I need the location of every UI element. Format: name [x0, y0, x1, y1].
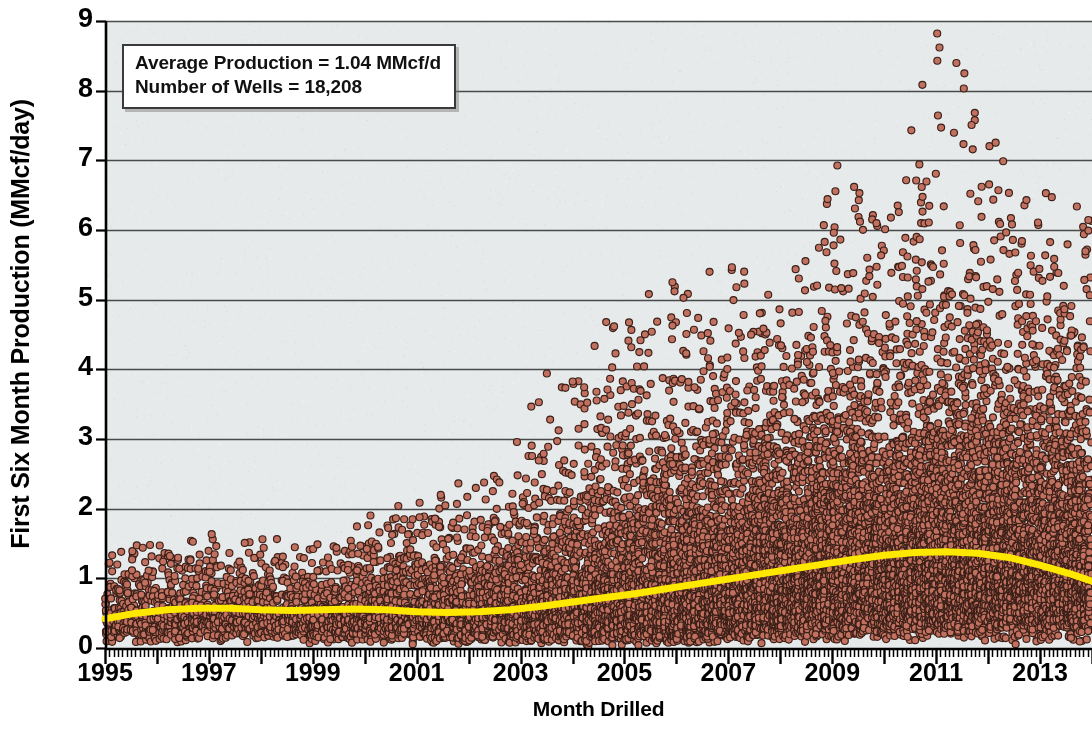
plot-area-canvas: [0, 0, 1092, 739]
y-tick-label: 6: [47, 214, 93, 241]
y-axis-title: First Six Month Production (MMcf/day): [0, 0, 40, 648]
x-tick-label: 1997: [159, 660, 259, 685]
x-tick-label: 1999: [263, 660, 363, 685]
y-tick-label: 4: [47, 353, 93, 380]
y-tick-label: 7: [47, 144, 93, 171]
y-tick-label: 9: [47, 5, 93, 32]
x-tick-label: 2003: [471, 660, 571, 685]
y-tick-label: 5: [47, 284, 93, 311]
y-tick-label: 1: [47, 562, 93, 589]
x-tick-label: 1995: [55, 660, 155, 685]
x-tick-label: 2001: [367, 660, 467, 685]
x-tick-label: 2011: [886, 660, 986, 685]
y-tick-label: 8: [47, 75, 93, 102]
x-axis-title: Month Drilled: [105, 697, 1092, 721]
y-tick-label: 2: [47, 493, 93, 520]
y-tick-label: 0: [47, 632, 93, 659]
summary-annotation-box: Average Production = 1.04 MMcf/d Number …: [122, 44, 456, 109]
y-tick-label: 3: [47, 423, 93, 450]
annotation-average-production: Average Production = 1.04 MMcf/d: [135, 51, 441, 75]
x-tick-label: 2009: [782, 660, 882, 685]
annotation-number-of-wells: Number of Wells = 18,208: [135, 75, 441, 99]
x-tick-label: 2013: [990, 660, 1090, 685]
scatter-chart: First Six Month Production (MMcf/day) Mo…: [0, 0, 1092, 739]
x-tick-label: 2007: [678, 660, 778, 685]
x-tick-label: 2005: [574, 660, 674, 685]
